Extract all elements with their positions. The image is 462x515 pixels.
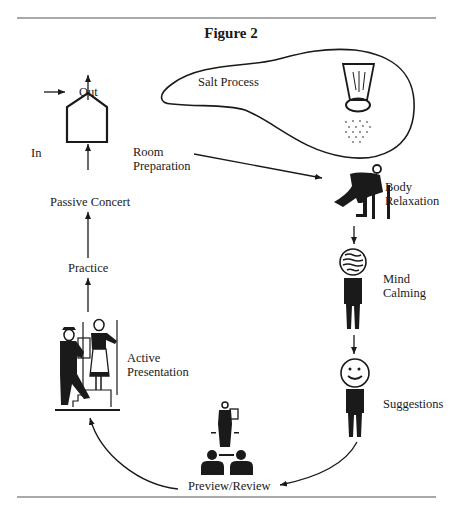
room-preparation-label-line2: Preparation [133,159,191,174]
seated-person-icon [334,165,390,219]
suggestions-label: Suggestions [383,397,443,412]
stair-couple-icon [55,320,120,411]
body-relaxation-label-line2: Relaxation [385,194,439,209]
salt-shaker-icon [343,64,374,143]
presenter-audience-icon [201,402,253,475]
room-preparation-label-line1: Room [133,145,164,160]
house-icon [67,93,107,142]
practice-label: Practice [68,261,108,276]
smiley-person-icon [341,359,369,437]
salt-process-label: Salt Process [198,75,259,90]
out-label: Out [79,85,98,100]
suggestions-to-preview-arrow [280,442,357,485]
active-presentation-label-line1: Active [127,351,160,366]
passive-concert-label: Passive Concert [50,195,130,210]
wavy-head-person-icon [340,249,366,329]
preview-review-label: Preview/Review [188,479,271,494]
body-relaxation-label-line1: Body [385,180,412,195]
salt-process-outline [162,49,415,158]
mind-calming-label-line1: Mind [383,272,410,287]
mind-calming-label-line2: Calming [383,286,426,301]
room-to-body-arrow [194,154,322,178]
preview-to-presentation-arrow [90,418,178,489]
active-presentation-label-line2: Presentation [127,365,189,380]
in-label: In [31,146,41,161]
